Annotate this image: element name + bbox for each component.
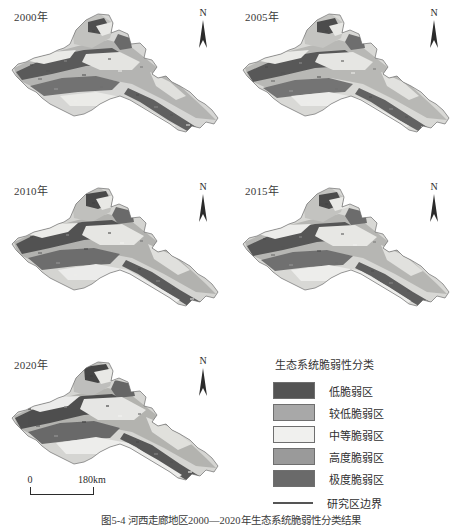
scale-bar-labels: 0 180km (30, 474, 126, 487)
legend-item-label: 低脆弱区 (329, 383, 373, 399)
legend-item-label: 极度脆弱区 (329, 471, 384, 487)
north-arrow-letter: N (195, 8, 211, 18)
figure-root: 2000年 N (0, 0, 462, 528)
legend-item-low: 低脆弱区 (263, 380, 453, 401)
scale-bar-ruler (30, 487, 94, 495)
legend-swatch (273, 404, 315, 421)
legend-item-label: 较低脆弱区 (329, 405, 384, 421)
legend: 生态系统脆弱性分类 低脆弱区 较低脆弱区 中等脆弱区 高度脆弱区 极度脆弱区 研… (263, 356, 453, 514)
figure-caption: 图5-4 河西走廊地区2000—2020年生态系统脆弱性分类结果 (0, 512, 462, 527)
legend-item-label: 高度脆弱区 (329, 449, 384, 465)
legend-swatch (273, 426, 315, 443)
north-arrow-letter: N (426, 8, 442, 18)
legend-item-high: 高度脆弱区 (263, 446, 453, 467)
legend-item-relatively-low: 较低脆弱区 (263, 402, 453, 423)
legend-swatch (273, 448, 315, 465)
panel-year-label: 2020年 (14, 356, 48, 372)
legend-title: 生态系统脆弱性分类 (275, 356, 453, 372)
map-panel-2005: 2005年 N (231, 0, 462, 176)
scale-bar-min-label: 0 (28, 474, 33, 485)
north-arrow-icon: N (426, 183, 442, 225)
map-panel-2000: 2000年 N (0, 0, 231, 176)
north-arrow-icon: N (426, 9, 442, 51)
panel-year-label: 2005年 (245, 8, 279, 24)
panel-year-label: 2000年 (14, 8, 48, 24)
legend-item-label: 研究区边界 (327, 495, 382, 511)
scale-bar: 0 180km (30, 474, 126, 495)
scale-bar-max-label: 180km (78, 474, 106, 485)
north-arrow-icon: N (195, 357, 211, 399)
legend-item-study-area-boundary: 研究区边界 (263, 492, 453, 514)
legend-swatch (273, 470, 315, 487)
north-arrow-letter: N (195, 356, 211, 366)
map-panel-2010: 2010年 N (0, 174, 231, 350)
panel-year-label: 2015年 (245, 182, 279, 198)
legend-item-moderate: 中等脆弱区 (263, 424, 453, 445)
map-panel-2015: 2015年 N (231, 174, 462, 350)
map-panel-2020: 2020年 N 0 180km (0, 348, 231, 524)
north-arrow-icon: N (195, 183, 211, 225)
north-arrow-letter: N (426, 182, 442, 192)
legend-item-label: 中等脆弱区 (329, 427, 384, 443)
legend-item-extreme: 极度脆弱区 (263, 468, 453, 489)
north-arrow-letter: N (195, 182, 211, 192)
legend-swatch (273, 382, 315, 399)
boundary-line-icon (273, 502, 313, 504)
north-arrow-icon: N (195, 9, 211, 51)
panel-year-label: 2010年 (14, 182, 48, 198)
